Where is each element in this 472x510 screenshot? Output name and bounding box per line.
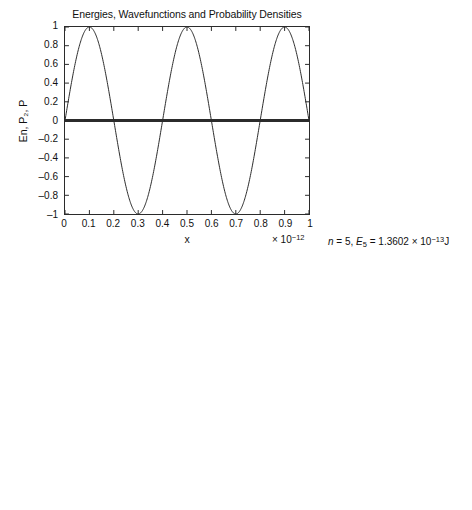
caption-n-value-top: = 5, xyxy=(334,236,357,247)
plot-curves-top xyxy=(65,27,309,214)
figure-container: Energies, Wavefunctions and Probability … xyxy=(0,0,472,510)
x-axis-multiplier-top: × 10−12 xyxy=(272,233,304,245)
chart-panel-top: Energies, Wavefunctions and Probability … xyxy=(0,0,472,255)
caption-e-symbol-top: E xyxy=(356,236,363,247)
chart-panel-bottom: Energies, Wavefunctions and Probability … xyxy=(0,255,472,510)
x-multiplier-exponent-top: −12 xyxy=(292,233,305,242)
y-tick-label: –0.2 xyxy=(4,134,58,144)
y-tick-label: –0.8 xyxy=(4,191,58,201)
x-tick-label: 1 xyxy=(295,219,325,229)
y-tick-label: 0.2 xyxy=(4,97,58,107)
y-tick-label: 0.8 xyxy=(4,40,58,50)
y-tick-label: 1 xyxy=(4,21,58,31)
caption-e-value-top: = 1.3602 × 10 xyxy=(367,236,432,247)
caption-unit-top: J xyxy=(444,236,449,247)
x-axis-ticklabels-top: 00.10.20.30.40.50.60.70.80.91 xyxy=(64,219,310,233)
y-tick-label: 0.4 xyxy=(4,78,58,88)
caption-e-exponent-top: −13 xyxy=(431,235,444,244)
y-tick-label: 0 xyxy=(4,116,58,126)
y-tick-label: –0.6 xyxy=(4,172,58,182)
caption-top: n = 5, E5 = 1.3602 × 10−13J xyxy=(328,235,449,249)
y-axis-ticklabels-top: 10.80.60.40.20–0.2–0.4–0.6–0.8–1 xyxy=(0,26,58,215)
y-axis-label-top: En, P₂, P xyxy=(17,81,29,161)
y-tick-label: 0.6 xyxy=(4,59,58,69)
plot-area-top xyxy=(64,26,310,215)
x-multiplier-base-top: × 10 xyxy=(272,234,292,245)
y-tick-label: –0.4 xyxy=(4,153,58,163)
chart-title-top: Energies, Wavefunctions and Probability … xyxy=(64,8,310,20)
